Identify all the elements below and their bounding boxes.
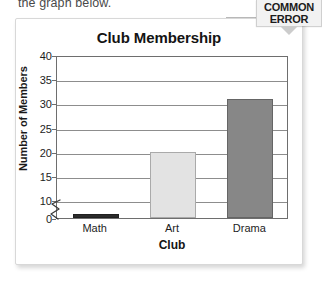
x-axis-title: Club [56,238,288,252]
common-error-badge-line-1: COMMON [259,2,319,14]
common-error-badge-pointer-icon [280,26,298,35]
y-tick-label-20: 20 [26,147,52,159]
common-error-badge: COMMON ERROR [256,0,322,35]
common-error-badge-line-2: ERROR [259,14,319,26]
badge-connector-rule [226,17,256,18]
bar-math [73,214,119,218]
axis-break-icon [47,199,63,221]
bar-drama [227,99,273,219]
lead-in-text: the graph below. [18,0,111,10]
y-tick-label-30: 30 [26,98,52,110]
y-tick-label-25: 25 [26,123,52,135]
plot-area [56,56,288,219]
y-tick-label-35: 35 [26,74,52,86]
x-tick-label-math: Math [82,222,106,234]
common-error-badge-body: COMMON ERROR [256,0,322,26]
chart-card: Club Membership Number of Members 010152… [15,18,303,265]
gridline-35 [57,81,287,82]
x-tick-label-drama: Drama [233,222,266,234]
bar-art [150,152,196,218]
x-tick-label-art: Art [165,222,179,234]
y-tick-label-15: 15 [26,171,52,183]
y-tick-label-40: 40 [26,50,52,62]
